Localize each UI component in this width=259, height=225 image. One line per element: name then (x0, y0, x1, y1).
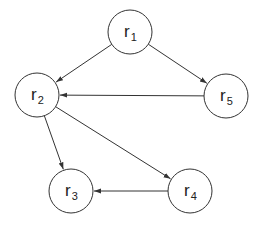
node-r3: r3 (49, 169, 93, 213)
node-r2: r2 (15, 73, 59, 117)
edge-r2-to-r3 (44, 116, 63, 170)
node-r4: r4 (168, 169, 212, 213)
nodes: r1r2r3r4r5 (15, 10, 248, 213)
edge-r1-to-r2 (56, 44, 112, 82)
edge-r5-to-r2 (60, 95, 204, 96)
node-r5: r5 (204, 74, 248, 118)
edge-r1-to-r5 (148, 44, 207, 83)
node-r1: r1 (108, 10, 152, 54)
edge-r2-to-r4 (56, 107, 171, 179)
directed-graph: r1r2r3r4r5 (0, 0, 259, 225)
